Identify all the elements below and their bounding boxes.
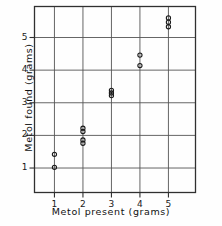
grid-lines [35, 7, 196, 193]
y-axis-title: Metol found (grams) [23, 18, 34, 178]
x-axis-title: Metol present (grams) [0, 206, 222, 217]
axis-tick-marks [30, 38, 169, 198]
scatter-plot-figure: 12345 12345 Metol present (grams) Metol … [0, 0, 222, 226]
plot-frame [35, 7, 196, 193]
